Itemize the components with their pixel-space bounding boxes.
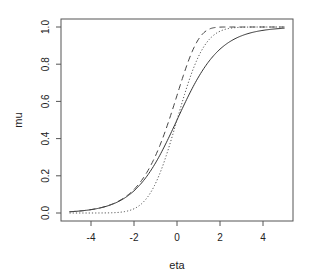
y-tick-label: 0.6 xyxy=(40,94,51,108)
series-group xyxy=(70,27,285,213)
y-tick-label: 0.2 xyxy=(40,168,51,182)
y-tick-label: 1.0 xyxy=(40,20,51,34)
x-axis: -4-2024 xyxy=(87,221,267,243)
y-tick-label: 0.8 xyxy=(40,57,51,71)
y-tick-label: 0.4 xyxy=(40,131,51,145)
x-tick-label: -4 xyxy=(87,232,96,243)
y-axis-title: mu xyxy=(12,112,24,127)
x-axis-title: eta xyxy=(169,259,185,271)
series-logit-line xyxy=(70,28,285,212)
y-axis: 0.00.20.40.60.81.0 xyxy=(40,20,61,220)
y-tick-label: 0.0 xyxy=(40,206,51,220)
link-function-chart: -4-2024 0.00.20.40.60.81.0 eta mu xyxy=(0,0,310,280)
x-tick-label: 4 xyxy=(260,232,266,243)
x-tick-label: -2 xyxy=(130,232,139,243)
x-tick-label: 0 xyxy=(174,232,180,243)
x-tick-label: 2 xyxy=(217,232,223,243)
